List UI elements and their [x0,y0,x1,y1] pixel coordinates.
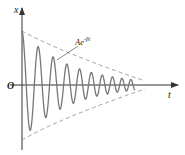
label-leader-line [57,46,78,60]
x-axis-label: t [168,89,171,100]
envelope-exponent: -βt [84,36,91,42]
envelope-label: Ae-βt [74,36,91,47]
origin-label: O [7,80,14,91]
envelope-base: Ae [74,37,84,47]
lower-envelope [22,89,145,140]
damped-oscillation-diagram: x t O Ae-βt [0,0,185,155]
y-axis-label: x [13,4,19,15]
